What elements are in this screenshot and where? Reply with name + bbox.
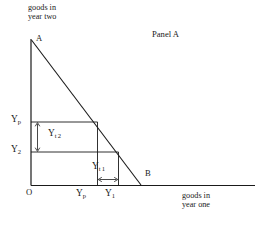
y-axis-caption: goods in year two <box>28 4 56 22</box>
origin-label: O <box>26 188 32 197</box>
x-axis-tick-label-y1-base: Y <box>105 188 112 198</box>
region-label-yt2-sub: t2 <box>55 132 61 139</box>
y-axis-tick-label-y2-sub: 2 <box>18 148 21 155</box>
x-axis-tick-label-y1: Y1 <box>105 188 115 198</box>
y-axis-tick-label-y2-base: Y <box>11 144 18 154</box>
x-axis-tick-label-yp-base: Y <box>76 188 83 198</box>
x-axis-tick-label-yp: Yp <box>76 188 86 198</box>
y-axis-tick-label-yp: Yp <box>11 114 21 124</box>
x-axis-caption-line2: year one <box>182 201 210 210</box>
x-axis-tick-label-y1-sub: 1 <box>112 192 115 199</box>
yt1-gap-arrow <box>98 177 118 181</box>
point-b-label: B <box>145 169 151 178</box>
panel-title: Panel A <box>152 30 179 39</box>
region-label-yt1-sub-second: 1 <box>102 165 105 172</box>
x-axis-tick-label-yp-sub: p <box>83 192 86 199</box>
point-a-label: A <box>36 34 42 43</box>
x-axis-caption: goods in year one <box>182 192 210 210</box>
figure-panel-a: goods in year two A Panel A Yp Y2 Yt2 Yt… <box>0 0 263 228</box>
y-axis-tick-label-yp-base: Y <box>11 114 18 124</box>
region-label-yt1-base: Y <box>92 161 99 171</box>
region-label-yt2-sub-second: 2 <box>58 132 61 139</box>
region-label-yt1: Yt1 <box>92 161 105 171</box>
region-label-yt2-base: Y <box>48 128 55 138</box>
budget-constraint-line <box>32 40 142 185</box>
y-axis-caption-line2: year two <box>28 13 56 22</box>
region-label-yt2: Yt2 <box>48 128 61 138</box>
y-axis-tick-label-yp-sub: p <box>18 118 21 125</box>
region-label-yt1-sub: t1 <box>99 165 105 172</box>
yt2-gap-arrow <box>35 123 40 152</box>
y-axis-tick-label-y2: Y2 <box>11 144 21 154</box>
